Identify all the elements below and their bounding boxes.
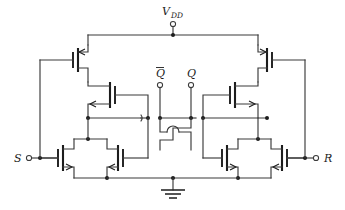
nmos-right-pair-group xyxy=(203,118,305,180)
s-terminal-circle[interactable] xyxy=(26,155,31,160)
vdd-rail-group xyxy=(88,21,258,45)
pmos-mid-left-source-lead xyxy=(88,82,110,86)
q-label: Q xyxy=(187,67,196,80)
nmos-right-outer-drain-lead xyxy=(271,139,282,149)
pmos-mid-right-drain-lead xyxy=(235,104,258,118)
pmos-top-left-source-lead xyxy=(78,45,88,52)
pmos-top-left-group xyxy=(40,45,88,82)
pmos-top-left-drain-lead xyxy=(78,68,88,82)
circuit-schematic: V DD Q Q S R xyxy=(0,0,345,210)
vdd-junction-dot xyxy=(171,33,175,37)
r-input-group xyxy=(287,60,319,161)
nmos-left-pair-group xyxy=(40,118,148,180)
output-terminals-group xyxy=(157,82,193,120)
pmos-top-right-group xyxy=(258,45,305,82)
nmos-right-inner-drain-lead xyxy=(227,139,238,149)
qbar-terminal-circle[interactable] xyxy=(157,82,162,87)
pmos-top-right-drain-lead xyxy=(258,68,267,82)
r-terminal-circle[interactable] xyxy=(313,155,318,160)
pmos-mid-left-drain-lead xyxy=(88,104,110,118)
nmos-left-outer-drain-lead xyxy=(63,139,74,149)
vdd-terminal-circle[interactable] xyxy=(170,21,175,26)
node-dot-right-rail xyxy=(265,116,269,120)
pmos-top-right-source-lead xyxy=(258,45,267,52)
ground-rail-group xyxy=(107,176,238,198)
pmos-mid-right-source-lead xyxy=(235,82,258,86)
qbar-label: Q xyxy=(156,67,165,80)
r-label: R xyxy=(323,152,332,165)
cross-q-to-left-gate xyxy=(160,118,191,150)
q-terminal-circle[interactable] xyxy=(188,82,193,87)
pmos-mid-right-group xyxy=(203,82,258,118)
pmos-mid-left-gate-lead xyxy=(115,95,148,118)
nmos-left-inner-drain-lead xyxy=(107,139,118,149)
schematic-canvas: V DD Q Q S R xyxy=(0,0,345,210)
vdd-sublabel: DD xyxy=(170,11,183,20)
vdd-label: V xyxy=(162,5,171,18)
mid-node-rail-group xyxy=(86,115,269,121)
cross-qbar-to-right-gate xyxy=(179,132,191,150)
cross-qbar-down xyxy=(160,118,167,132)
cross-couple-group xyxy=(148,118,203,158)
s-label: S xyxy=(14,152,22,165)
pmos-mid-left-group xyxy=(88,82,148,118)
s-input-group xyxy=(26,60,58,161)
pmos-mid-right-gate-lead xyxy=(203,95,230,118)
